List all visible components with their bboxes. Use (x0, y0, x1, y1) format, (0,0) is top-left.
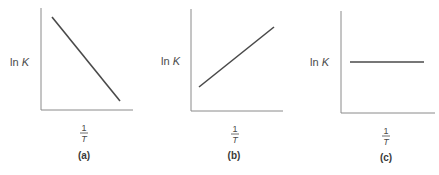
panel-a-caption: (a) (78, 150, 90, 161)
panel-b-y-label: ln K (161, 55, 181, 67)
panel-a-y-label: ln K (10, 56, 30, 68)
panel-a-data-line (52, 17, 120, 101)
panel-a-x-label: 1 T (80, 123, 88, 144)
panel-a-x-label-denominator: T (81, 134, 88, 144)
panel-c-x-label: 1 T (382, 126, 390, 147)
panel-a-x-label-numerator: 1 (81, 123, 86, 133)
panel-b-caption: (b) (228, 150, 241, 161)
panel-b-data-line (199, 27, 274, 87)
figure-canvas: ln K 1 T (a) ln K 1 T (b) ln K 1 T (c) (0, 0, 439, 175)
panel-c: ln K 1 T (c) (310, 11, 435, 163)
panel-c-x-label-numerator: 1 (383, 126, 388, 136)
panel-c-x-label-denominator: T (383, 137, 390, 147)
panel-b: ln K 1 T (b) (161, 9, 283, 161)
panel-b-x-label-numerator: 1 (232, 124, 237, 134)
panel-c-caption: (c) (380, 152, 392, 163)
panel-b-x-label-denominator: T (232, 135, 239, 145)
panel-a: ln K 1 T (a) (10, 8, 133, 161)
panel-c-y-label: ln K (310, 56, 330, 68)
panel-b-x-label: 1 T (231, 124, 239, 145)
